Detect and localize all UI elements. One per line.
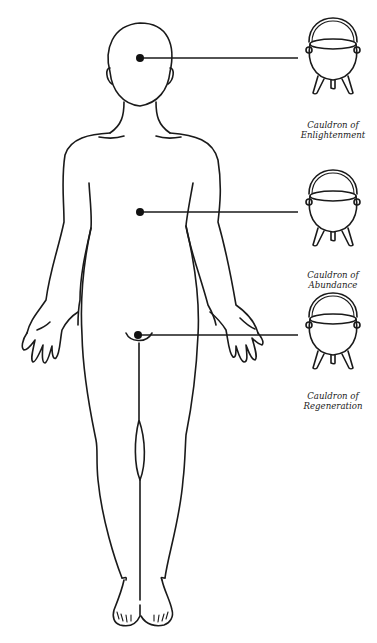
pointer-chest	[136, 208, 298, 216]
pointer-head	[136, 54, 298, 62]
label-abundance-line2: Abundance	[288, 280, 377, 290]
label-regeneration: Cauldron of Regeneration	[288, 391, 377, 411]
cauldron-abundance-icon	[306, 170, 360, 246]
body-outline	[22, 23, 262, 626]
label-enlightenment-line2: Enlightenment	[288, 130, 377, 140]
label-enlightenment-line1: Cauldron of	[288, 120, 377, 130]
label-abundance: Cauldron of Abundance	[288, 270, 377, 290]
label-regeneration-line1: Cauldron of	[288, 391, 377, 401]
label-abundance-line1: Cauldron of	[288, 270, 377, 280]
body-diagram	[0, 0, 377, 643]
label-enlightenment: Cauldron of Enlightenment	[288, 120, 377, 140]
pointer-belly	[134, 331, 298, 339]
cauldron-regeneration-icon	[306, 293, 360, 369]
label-regeneration-line2: Regeneration	[288, 401, 377, 411]
cauldron-enlightenment-icon	[306, 18, 360, 94]
